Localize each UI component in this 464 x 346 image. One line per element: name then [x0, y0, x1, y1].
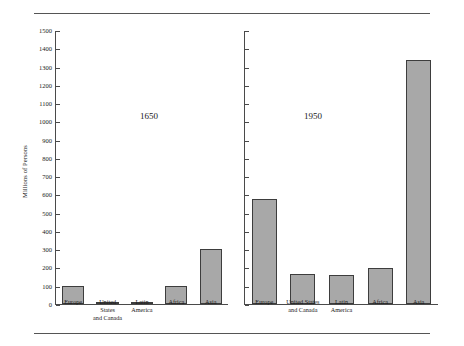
y-tick-300: 300 — [22, 250, 60, 251]
y-tick-200: 200 — [22, 268, 60, 269]
y-tick-label: 1000 — [22, 118, 52, 125]
y-tick-1100: 1100 — [22, 104, 60, 105]
bar-group-1650 — [56, 31, 228, 304]
category-label: Asia — [400, 295, 437, 321]
category-label: Latin America — [126, 295, 159, 321]
bar-slot — [362, 31, 399, 304]
category-label: Africa — [362, 295, 399, 321]
category-labels-1950: EuropeUnited States and CanadaLatin Amer… — [245, 295, 438, 321]
bottom-rule — [34, 333, 430, 334]
y-tick-1400: 1400 — [22, 49, 60, 50]
category-label: Latin America — [323, 295, 360, 321]
y-tick-1500: 1500 — [22, 31, 60, 32]
category-label: Europe — [57, 295, 90, 321]
panel-1950: 1950 EuropeUnited States and CanadaLatin… — [232, 25, 442, 320]
plot-area-1950 — [245, 31, 438, 305]
y-tick-700: 700 — [22, 177, 60, 178]
bar-slot — [246, 31, 283, 304]
bar-slot — [194, 31, 227, 304]
y-tick-400: 400 — [22, 232, 60, 233]
bar[interactable] — [406, 60, 431, 304]
y-tick-0: 0 — [22, 305, 60, 306]
y-tick-label: 1200 — [22, 82, 52, 89]
category-labels-1650: EuropeUnited States and CanadaLatin Amer… — [56, 295, 228, 321]
y-tick-100: 100 — [22, 287, 60, 288]
category-label: Asia — [194, 295, 227, 321]
y-tick-600: 600 — [22, 195, 60, 196]
y-tick-label: 0 — [22, 301, 52, 308]
y-tick-label: 1300 — [22, 64, 52, 71]
y-tick-900: 900 — [22, 141, 60, 142]
y-tick-label: 600 — [22, 191, 52, 198]
category-label: Europe — [246, 295, 283, 321]
bar-slot — [285, 31, 322, 304]
bar-group-1950 — [245, 31, 438, 304]
category-label: United States and Canada — [91, 295, 124, 321]
bar-slot — [57, 31, 90, 304]
y-tick-label: 800 — [22, 155, 52, 162]
y-tick-label: 100 — [22, 283, 52, 290]
y-tick-label: 200 — [22, 264, 52, 271]
y-tick-label: 400 — [22, 228, 52, 235]
y-tick-label: 300 — [22, 246, 52, 253]
figure: Millions of Persons 1650 010020030040050… — [0, 0, 464, 346]
y-tick-label: 500 — [22, 210, 52, 217]
top-rule — [34, 13, 430, 14]
y-tick-label: 700 — [22, 173, 52, 180]
y-tick-1000: 1000 — [22, 122, 60, 123]
category-label: United States and Canada — [285, 295, 322, 321]
y-tick-label: 1100 — [22, 100, 52, 107]
y-tick-label: 1500 — [22, 27, 52, 34]
bar-slot — [126, 31, 159, 304]
y-tick-label: 1400 — [22, 45, 52, 52]
bar-slot — [400, 31, 437, 304]
bar-slot — [91, 31, 124, 304]
bar[interactable] — [252, 199, 277, 304]
y-tick-label: 900 — [22, 137, 52, 144]
panel-1650: 1650 01002003004005006007008009001000110… — [22, 25, 230, 320]
y-tick-1200: 1200 — [22, 86, 60, 87]
y-tick-800: 800 — [22, 159, 60, 160]
plot-area-1650 — [56, 31, 228, 305]
bar-slot — [160, 31, 193, 304]
bar-slot — [323, 31, 360, 304]
y-tick-1300: 1300 — [22, 68, 60, 69]
category-label: Africa — [160, 295, 193, 321]
y-tick-500: 500 — [22, 214, 60, 215]
